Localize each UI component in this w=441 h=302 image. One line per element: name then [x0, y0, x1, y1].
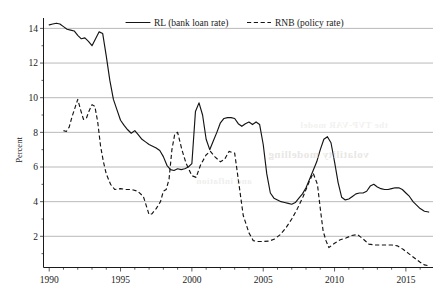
- chart-canvas: 199019952000200520102015 2468101214 Perc…: [0, 0, 441, 302]
- y-tick-label: 6: [33, 162, 38, 172]
- y-tick-label: 2: [33, 232, 38, 242]
- y-axis-ticks: [40, 28, 44, 253]
- x-axis-tick-labels: 199019952000200520102015: [40, 275, 416, 285]
- x-tick-label: 1995: [111, 275, 130, 285]
- x-tick-label: 2005: [254, 275, 273, 285]
- x-tick-label: 2015: [396, 275, 415, 285]
- series-line-rl: [49, 23, 429, 212]
- x-tick-label: 2010: [325, 275, 344, 285]
- y-axis-title: Percent: [14, 137, 24, 163]
- x-tick-label: 2000: [182, 275, 201, 285]
- y-tick-label: 12: [29, 58, 39, 68]
- series-line-rnb: [63, 99, 428, 265]
- x-axis-ticks: [49, 268, 420, 272]
- y-tick-label: 8: [33, 128, 38, 138]
- y-tick-label: 10: [29, 93, 39, 103]
- y-tick-label: 14: [29, 24, 39, 34]
- interest-rate-chart-figure: volatility modelling and inflation the T…: [0, 0, 441, 302]
- chart-legend: RL (bank loan rate) RNB (policy rate): [126, 18, 344, 29]
- grid-lines: [44, 28, 434, 236]
- legend-label-rl: RL (bank loan rate): [154, 18, 228, 29]
- legend-label-rnb: RNB (policy rate): [275, 18, 344, 29]
- y-axis-tick-labels: 2468101214: [29, 24, 39, 242]
- x-tick-label: 1990: [40, 275, 59, 285]
- y-tick-label: 4: [33, 197, 38, 207]
